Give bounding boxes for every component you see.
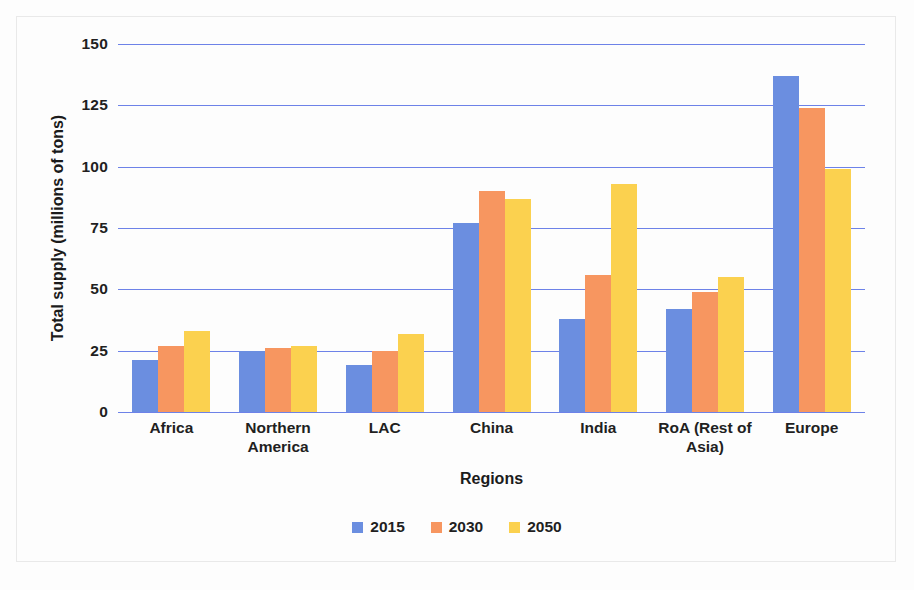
x-axis-tick-label: Europe bbox=[758, 418, 865, 457]
legend-swatch-icon bbox=[352, 522, 363, 533]
bar-group bbox=[225, 44, 332, 412]
legend-label: 2030 bbox=[449, 518, 483, 536]
bar[interactable] bbox=[346, 365, 372, 412]
bar-groups bbox=[118, 44, 865, 412]
x-axis-tick-label: China bbox=[438, 418, 545, 457]
y-axis-tick-label: 25 bbox=[90, 342, 108, 360]
bar[interactable] bbox=[505, 199, 531, 412]
bar-group bbox=[118, 44, 225, 412]
chart-legend: 201520302050 bbox=[0, 518, 914, 536]
bar[interactable] bbox=[692, 292, 718, 412]
legend-swatch-icon bbox=[431, 522, 442, 533]
legend-item[interactable]: 2050 bbox=[509, 518, 561, 536]
bar[interactable] bbox=[291, 346, 317, 412]
x-axis-tick-label: LAC bbox=[331, 418, 438, 457]
bar-group bbox=[331, 44, 438, 412]
bar[interactable] bbox=[398, 334, 424, 413]
bar[interactable] bbox=[372, 351, 398, 412]
y-axis-tick-label: 0 bbox=[99, 403, 108, 421]
gridline bbox=[118, 412, 865, 413]
plot-area bbox=[118, 44, 865, 412]
x-axis-tick-labels: AfricaNorthern AmericaLACChinaIndiaRoA (… bbox=[118, 418, 865, 457]
legend-swatch-icon bbox=[509, 522, 520, 533]
bar[interactable] bbox=[132, 360, 158, 412]
y-axis-tick-label: 75 bbox=[90, 219, 108, 237]
bar[interactable] bbox=[585, 275, 611, 412]
bar[interactable] bbox=[559, 319, 585, 412]
bar[interactable] bbox=[184, 331, 210, 412]
y-axis-tick-labels: 0255075100125150 bbox=[60, 44, 108, 412]
bar[interactable] bbox=[799, 108, 825, 412]
y-axis-tick-label: 150 bbox=[82, 35, 108, 53]
y-axis-tick-label: 50 bbox=[90, 280, 108, 298]
bar[interactable] bbox=[825, 169, 851, 412]
legend-item[interactable]: 2015 bbox=[352, 518, 404, 536]
x-axis-tick-label: RoA (Rest of Asia) bbox=[652, 418, 759, 457]
legend-item[interactable]: 2030 bbox=[431, 518, 483, 536]
bar[interactable] bbox=[718, 277, 744, 412]
bar-group bbox=[652, 44, 759, 412]
bar[interactable] bbox=[611, 184, 637, 412]
bar-group bbox=[545, 44, 652, 412]
bar[interactable] bbox=[265, 348, 291, 412]
legend-label: 2015 bbox=[370, 518, 404, 536]
chart-figure: Total supply (millions of tons) 02550751… bbox=[0, 0, 914, 590]
bar[interactable] bbox=[773, 76, 799, 412]
bar[interactable] bbox=[239, 351, 265, 412]
bar[interactable] bbox=[453, 223, 479, 412]
x-axis-tick-label: India bbox=[545, 418, 652, 457]
x-axis-tick-label: Africa bbox=[118, 418, 225, 457]
legend-label: 2050 bbox=[527, 518, 561, 536]
x-axis-title: Regions bbox=[118, 470, 865, 488]
bar-group bbox=[758, 44, 865, 412]
bar[interactable] bbox=[479, 191, 505, 412]
y-axis-tick-label: 100 bbox=[82, 158, 108, 176]
bar[interactable] bbox=[666, 309, 692, 412]
bar[interactable] bbox=[158, 346, 184, 412]
y-axis-tick-label: 125 bbox=[82, 96, 108, 114]
bar-group bbox=[438, 44, 545, 412]
x-axis-tick-label: Northern America bbox=[225, 418, 332, 457]
